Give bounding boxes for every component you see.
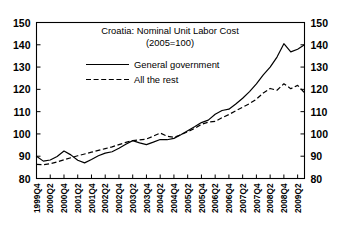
chart-subtitle: (2005=100) — [146, 37, 194, 48]
nominal-unit-labor-cost-chart: 8090100110120130140150 80901001101201301… — [0, 0, 341, 236]
y-label-right-110: 110 — [311, 106, 328, 118]
x-label-2006Q4: 2006Q4 — [224, 183, 234, 213]
legend-label-all-the-rest: All the rest — [134, 74, 179, 85]
y-label-right-140: 140 — [311, 39, 329, 51]
x-label-2008Q4: 2008Q4 — [279, 183, 289, 213]
y-label-left-80: 80 — [19, 173, 31, 185]
y-label-right-100: 100 — [311, 128, 329, 140]
y-label-left-150: 150 — [13, 17, 31, 29]
x-label-2002Q2: 2002Q2 — [100, 183, 110, 213]
y-label-left-130: 130 — [13, 61, 31, 73]
chart-canvas: 8090100110120130140150 80901001101201301… — [0, 0, 341, 236]
y-label-right-130: 130 — [311, 61, 329, 73]
y-label-left-90: 90 — [19, 150, 31, 162]
legend-label-general-government: General government — [134, 59, 220, 70]
y-label-left-100: 100 — [13, 128, 31, 140]
x-label-2000Q2: 2000Q2 — [45, 183, 55, 213]
x-label-2006Q2: 2006Q2 — [210, 183, 220, 213]
x-label-2005Q4: 2005Q4 — [197, 183, 207, 213]
y-label-right-90: 90 — [311, 150, 323, 162]
x-label-2004Q2: 2004Q2 — [155, 183, 165, 213]
y-label-left-140: 140 — [13, 39, 31, 51]
x-label-2005Q2: 2005Q2 — [183, 183, 193, 213]
x-label-2007Q4: 2007Q4 — [252, 183, 262, 213]
x-label-2001Q2: 2001Q2 — [73, 183, 83, 213]
x-label-1999Q4: 1999Q4 — [32, 183, 42, 213]
x-label-2001Q4: 2001Q4 — [87, 183, 97, 213]
x-label-2009Q2: 2009Q2 — [293, 183, 303, 213]
x-label-2000Q4: 2000Q4 — [59, 183, 69, 213]
x-label-2003Q2: 2003Q2 — [128, 183, 138, 213]
y-label-left-110: 110 — [14, 106, 31, 118]
y-label-right-150: 150 — [311, 17, 329, 29]
x-label-2007Q2: 2007Q2 — [238, 183, 248, 213]
y-label-left-120: 120 — [13, 83, 31, 95]
y-label-right-80: 80 — [311, 173, 323, 185]
x-label-2004Q4: 2004Q4 — [169, 183, 179, 213]
y-label-right-120: 120 — [311, 83, 329, 95]
x-label-2008Q2: 2008Q2 — [265, 183, 275, 213]
x-label-2003Q4: 2003Q4 — [142, 183, 152, 213]
chart-title: Croatia: Nominal Unit Labor Cost — [101, 25, 239, 36]
x-label-2002Q4: 2002Q4 — [114, 183, 124, 213]
